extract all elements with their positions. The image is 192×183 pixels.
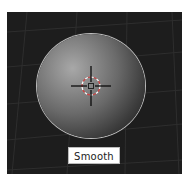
3d-viewport[interactable]: Smooth [7,12,182,174]
shading-label: Smooth [68,147,120,164]
